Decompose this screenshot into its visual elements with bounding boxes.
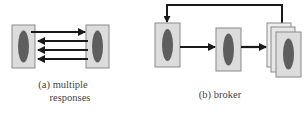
caption-broker: (b) broker (180, 88, 260, 101)
server-node-a (86, 25, 109, 68)
diagram-b (155, 5, 301, 77)
process-ellipse-icon (283, 39, 294, 70)
process-ellipse-icon (162, 29, 173, 61)
server-stack-node (267, 23, 301, 77)
process-ellipse-icon (18, 31, 29, 63)
client-node-b (155, 23, 180, 67)
caption-a-line1: (a) multiple (28, 78, 98, 91)
feedback-arrow-icon (167, 5, 282, 23)
process-ellipse-icon (223, 34, 234, 66)
caption-a-line2: responses (28, 91, 98, 104)
process-ellipse-icon (92, 31, 103, 63)
caption-multiple-responses: (a) multiple responses (28, 78, 98, 104)
diagram-a (12, 25, 109, 68)
broker-node (216, 28, 241, 71)
